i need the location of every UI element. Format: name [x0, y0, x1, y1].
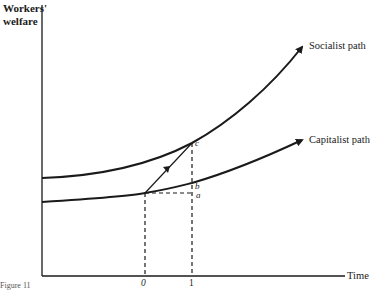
- y-axis-label-line2: welfare: [3, 15, 47, 28]
- capitalist-path-label: Capitalist path: [309, 134, 370, 146]
- point-a-label: a: [196, 189, 201, 201]
- socialist-path-label: Socialist path: [309, 40, 366, 52]
- figure-caption: Figure 11: [0, 280, 31, 292]
- y-axis-label-line1: Workers': [3, 2, 47, 15]
- y-axis-label: Workers' welfare: [3, 2, 47, 28]
- capitalist-path-curve: [42, 140, 302, 202]
- point-c-label: c: [195, 137, 199, 149]
- x-tick-1: 1: [189, 277, 194, 289]
- x-tick-0: 0: [141, 277, 146, 289]
- x-axis-label: Time: [347, 270, 369, 282]
